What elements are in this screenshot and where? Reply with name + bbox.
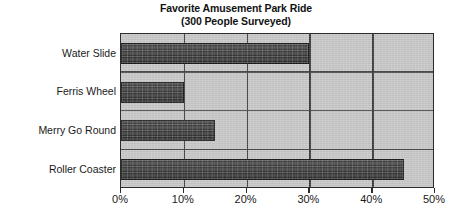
chart-title-line-1: Favorite Amusement Park Ride	[0, 2, 472, 15]
chart-title: Favorite Amusement Park Ride (300 People…	[0, 2, 472, 27]
x-axis-tick-label-50: 50%	[404, 193, 464, 206]
y-axis-label-roller-coaster: Roller Coaster	[0, 163, 116, 175]
bar-merry-go-round[interactable]	[121, 120, 215, 141]
bar-ferris-wheel[interactable]	[121, 82, 184, 103]
x-axis-tick-label-0: 0%	[90, 193, 150, 206]
y-axis-label-merry-go-round: Merry Go Round	[0, 124, 116, 136]
bar-roller-coaster[interactable]	[121, 159, 404, 180]
x-axis-tick-label-30: 30%	[278, 193, 338, 206]
x-axis-tick-label-10: 10%	[153, 193, 213, 206]
gridline-horizontal	[121, 149, 433, 150]
gridline-horizontal	[121, 71, 433, 72]
x-axis-tick-label-20: 20%	[216, 193, 276, 206]
gridline-horizontal	[121, 110, 433, 111]
bar-water-slide[interactable]	[121, 43, 309, 64]
bar-chart-figure: Favorite Amusement Park Ride (300 People…	[0, 0, 472, 220]
chart-title-line-2: (300 People Surveyed)	[0, 15, 472, 28]
plot-area	[120, 33, 434, 188]
y-axis-label-water-slide: Water Slide	[0, 47, 116, 59]
y-axis-label-ferris-wheel: Ferris Wheel	[0, 85, 116, 97]
x-axis-tick-label-40: 40%	[341, 193, 401, 206]
